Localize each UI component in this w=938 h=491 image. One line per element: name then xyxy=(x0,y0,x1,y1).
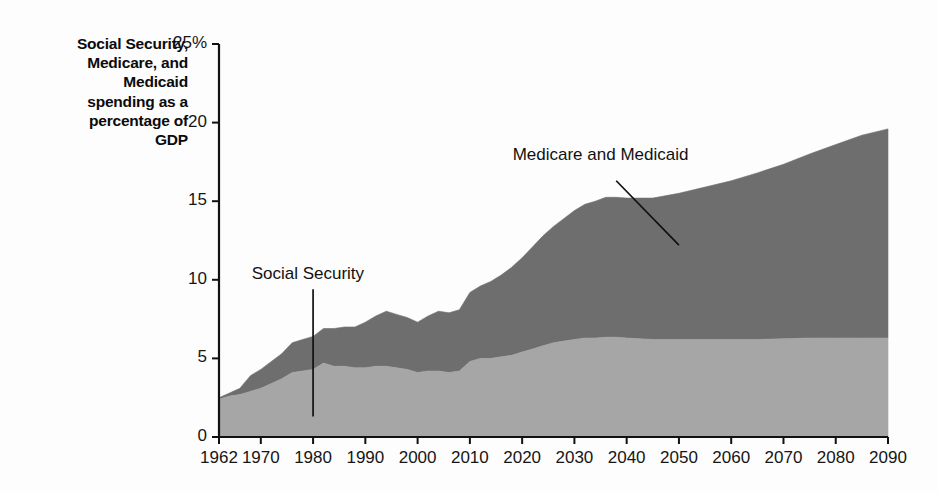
y-tick-label: 25% xyxy=(173,33,207,53)
series-annotation-label: Medicare and Medicaid xyxy=(513,145,689,165)
y-tick-label: 5 xyxy=(198,347,207,367)
series-annotation-label: Social Security xyxy=(252,264,364,284)
chart-figure: Social Security, Medicare, and Medicaid … xyxy=(0,0,938,491)
y-tick-label: 15 xyxy=(188,190,207,210)
x-tick-label: 2090 xyxy=(848,448,928,468)
y-tick-label: 10 xyxy=(188,269,207,289)
y-tick-label: 20 xyxy=(188,112,207,132)
area-chart-plot xyxy=(0,0,938,491)
y-tick-label: 0 xyxy=(198,426,207,446)
